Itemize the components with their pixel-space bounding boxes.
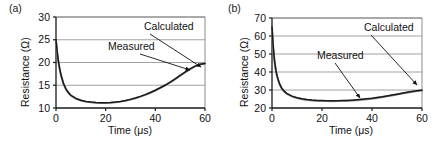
svg-text:30: 30 xyxy=(254,84,266,96)
svg-text:0: 0 xyxy=(269,112,275,124)
annotation-arrow xyxy=(150,34,201,67)
svg-text:60: 60 xyxy=(254,30,266,42)
svg-text:40: 40 xyxy=(366,112,378,124)
figure-two-panel-resistance-vs-time: (a) Resistance (Ω) Time (μs) 10152025300… xyxy=(0,0,439,141)
svg-text:70: 70 xyxy=(254,12,266,24)
svg-text:20: 20 xyxy=(38,56,50,68)
svg-text:25: 25 xyxy=(38,33,50,45)
annotation-arrow xyxy=(371,35,417,85)
svg-text:30: 30 xyxy=(38,11,50,23)
panel-a: (a) Resistance (Ω) Time (μs) 10152025300… xyxy=(0,0,219,141)
svg-text:15: 15 xyxy=(38,79,50,91)
annotation-label: Measured xyxy=(108,40,155,52)
svg-text:0: 0 xyxy=(53,112,59,124)
svg-text:20: 20 xyxy=(100,112,112,124)
annotation-label: Calculated xyxy=(364,21,414,33)
annotation-arrow xyxy=(335,63,360,98)
panel-b: (b) Resistance (Ω) Time (μs) 20304050607… xyxy=(219,0,438,141)
svg-text:20: 20 xyxy=(316,112,328,124)
svg-text:40: 40 xyxy=(254,66,266,78)
annotation-label: Calculated xyxy=(144,20,194,32)
svg-text:50: 50 xyxy=(254,48,266,60)
annotation-arrow xyxy=(140,54,190,70)
panel-a-plot: 10152025300204060CalculatedMeasured xyxy=(0,0,219,141)
svg-text:40: 40 xyxy=(149,112,161,124)
svg-text:60: 60 xyxy=(416,112,428,124)
annotation-label: Measured xyxy=(317,49,364,61)
svg-text:20: 20 xyxy=(254,102,266,114)
svg-text:60: 60 xyxy=(199,112,211,124)
panel-b-plot: 2030405060700204060CalculatedMeasured xyxy=(219,0,438,141)
svg-text:10: 10 xyxy=(38,102,50,114)
